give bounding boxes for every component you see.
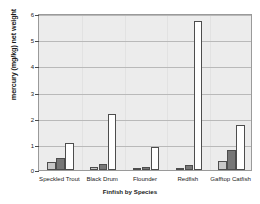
- x-axis-tick-label: Flounder: [133, 175, 157, 182]
- bar: [56, 158, 65, 170]
- y-axis-tick: [35, 94, 39, 95]
- gridline: [39, 15, 251, 16]
- y-axis-tick: [35, 67, 39, 68]
- gridline: [39, 41, 251, 42]
- gridline: [39, 94, 251, 95]
- bar: [47, 162, 56, 170]
- y-axis-tick-label: 1: [31, 143, 34, 149]
- plot-area: 0123456: [38, 14, 252, 171]
- bar: [99, 164, 108, 170]
- gridline: [39, 67, 251, 68]
- bar: [227, 150, 236, 170]
- bar: [194, 21, 203, 170]
- bar: [236, 125, 245, 170]
- x-axis-tick-label: Black Drum: [86, 175, 118, 182]
- y-axis-tick-label: 3: [31, 91, 34, 97]
- bar: [142, 167, 151, 170]
- y-axis-tick: [35, 41, 39, 42]
- x-axis-title: Finfish by Species: [0, 188, 260, 195]
- bar: [151, 147, 160, 170]
- y-axis-tick-label: 6: [31, 12, 34, 18]
- y-axis-tick: [35, 146, 39, 147]
- x-axis-tick-label: Gafftop Catfish: [210, 175, 251, 182]
- bar: [90, 167, 99, 170]
- y-axis-title: mercury (mg/kg) net weight: [9, 0, 18, 130]
- y-axis-tick-label: 0: [31, 168, 34, 174]
- y-axis-tick-label: 4: [31, 64, 34, 70]
- x-axis-tick-label: Redfish: [177, 175, 198, 182]
- y-axis-tick: [35, 15, 39, 16]
- chart-figure: mercury (mg/kg) net weight 0123456 Finfi…: [0, 0, 260, 204]
- y-axis-tick: [35, 171, 39, 172]
- bar: [133, 168, 142, 170]
- bar: [218, 161, 227, 170]
- y-axis-tick-label: 5: [31, 38, 34, 44]
- gridline: [39, 120, 251, 121]
- y-axis-tick: [35, 120, 39, 121]
- x-axis-tick-label: Speckled Trout: [39, 175, 80, 182]
- y-axis-tick-label: 2: [31, 117, 34, 123]
- bar: [185, 165, 194, 170]
- bar: [108, 114, 117, 170]
- bar: [176, 168, 185, 170]
- bar: [65, 143, 74, 170]
